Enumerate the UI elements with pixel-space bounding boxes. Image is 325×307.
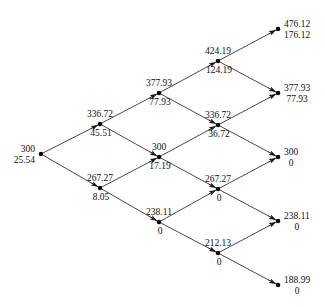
tree-node[interactable] xyxy=(216,59,221,64)
tree-node[interactable] xyxy=(216,123,221,128)
tree-edge-arrowhead-icon xyxy=(209,184,216,188)
node-option-value: 0 xyxy=(217,257,222,268)
tree-edge-arrowhead-icon xyxy=(209,120,216,124)
node-asset-price: 212.13 xyxy=(205,237,231,248)
node-option-value: 77.93 xyxy=(149,97,170,108)
tree-node[interactable] xyxy=(216,187,221,192)
node-asset-price: 267.27 xyxy=(205,173,231,184)
tree-node[interactable] xyxy=(98,186,103,191)
node-option-value: 45.51 xyxy=(90,128,111,139)
tree-edge-arrowhead-icon xyxy=(150,152,157,156)
node-option-value: 0 xyxy=(284,157,298,168)
node-value-group: 30025.54 xyxy=(14,144,35,165)
node-option-value: 25.54 xyxy=(14,154,35,165)
node-asset-price: 424.19 xyxy=(205,45,231,56)
tree-edge-arrowhead-icon xyxy=(269,216,276,220)
node-option-value: 124.19 xyxy=(206,65,232,76)
tree-edge-arrowhead-icon xyxy=(209,248,216,252)
tree-node[interactable] xyxy=(39,152,44,157)
node-asset-price: 336.72 xyxy=(205,109,231,120)
node-option-value: 0 xyxy=(217,193,222,204)
tree-edge-arrowhead-icon xyxy=(269,30,276,34)
tree-node[interactable] xyxy=(98,122,103,127)
node-value-group: 476.12176.12 xyxy=(284,19,310,40)
node-asset-price: 377.93 xyxy=(146,77,172,88)
node-option-value: 0 xyxy=(284,285,310,296)
tree-edge-arrowhead-icon xyxy=(269,152,276,156)
node-asset-price: 377.93 xyxy=(284,83,310,94)
node-value-group: 238.110 xyxy=(284,211,310,232)
tree-node[interactable] xyxy=(216,251,221,256)
node-option-value: 176.12 xyxy=(284,29,310,40)
node-asset-price: 188.99 xyxy=(284,275,310,286)
node-asset-price: 300 xyxy=(14,144,35,155)
tree-edge-arrowhead-icon xyxy=(269,94,276,98)
tree-edge-arrowhead-icon xyxy=(91,183,98,187)
tree-node[interactable] xyxy=(157,220,162,225)
node-option-value: 0 xyxy=(284,221,310,232)
node-asset-price: 238.11 xyxy=(146,206,172,217)
node-option-value: 36.72 xyxy=(208,129,229,140)
node-value-group: 188.990 xyxy=(284,275,310,296)
node-option-value: 77.93 xyxy=(284,93,310,104)
node-asset-price: 300 xyxy=(284,147,298,158)
tree-node[interactable] xyxy=(276,219,281,224)
node-asset-price: 476.12 xyxy=(284,19,310,30)
node-option-value: 8.05 xyxy=(93,192,110,203)
tree-edge-arrowhead-icon xyxy=(269,88,276,92)
tree-node[interactable] xyxy=(276,91,281,96)
node-asset-price: 267.27 xyxy=(87,172,113,183)
tree-node[interactable] xyxy=(276,283,281,288)
node-option-value: 17.19 xyxy=(149,161,170,172)
tree-edge-arrowhead-icon xyxy=(209,190,216,194)
binomial-tree-diagram: 30025.54336.7245.51267.278.05377.9377.93… xyxy=(0,0,325,307)
tree-edge-arrowhead-icon xyxy=(269,222,276,226)
node-asset-price: 336.72 xyxy=(87,108,113,119)
tree-edge-arrowhead-icon xyxy=(150,217,157,221)
tree-node[interactable] xyxy=(157,91,162,96)
tree-edge-arrowhead-icon xyxy=(269,158,276,162)
node-asset-price: 238.11 xyxy=(284,211,310,222)
node-asset-price: 300 xyxy=(152,141,166,152)
tree-edge xyxy=(220,190,276,220)
tree-edges-layer xyxy=(0,0,325,307)
node-value-group: 377.9377.93 xyxy=(284,83,310,104)
node-option-value: 0 xyxy=(158,226,163,237)
node-value-group: 3000 xyxy=(284,147,298,168)
tree-edge-arrowhead-icon xyxy=(269,280,276,284)
tree-node[interactable] xyxy=(157,155,162,160)
tree-node[interactable] xyxy=(276,155,281,160)
tree-node[interactable] xyxy=(276,27,281,32)
tree-edge xyxy=(220,254,276,284)
